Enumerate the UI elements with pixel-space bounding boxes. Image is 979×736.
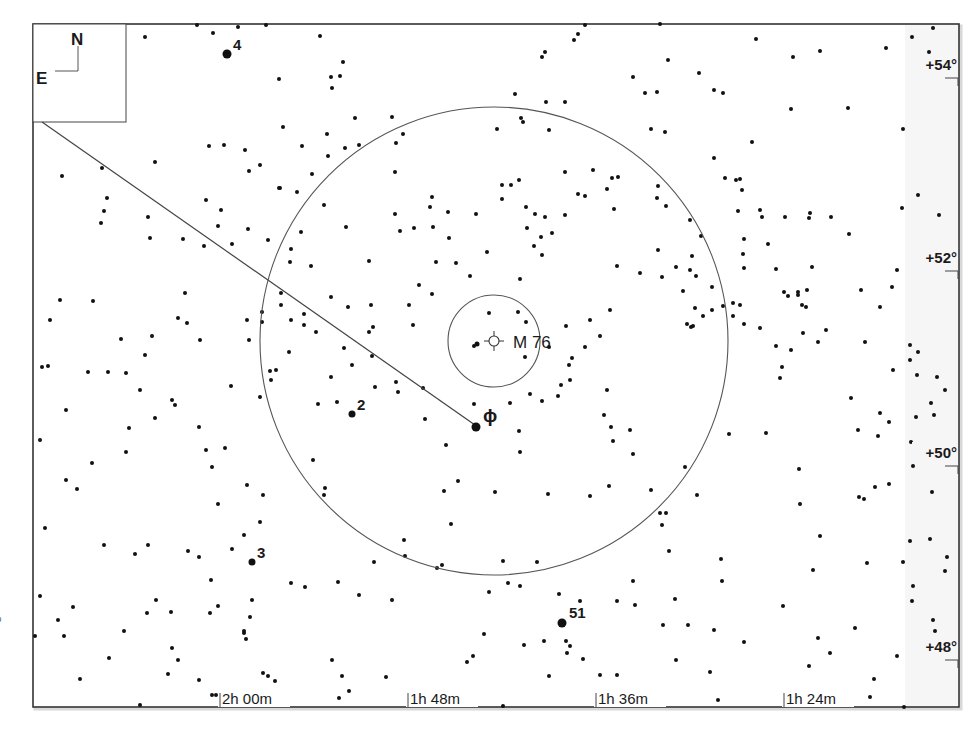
- star: [281, 125, 285, 129]
- star: [810, 265, 814, 269]
- star: [258, 163, 262, 167]
- star: [734, 178, 738, 182]
- star: [758, 208, 762, 212]
- star: [716, 698, 720, 702]
- star: [407, 303, 411, 307]
- star: [153, 416, 157, 420]
- star-label: 2: [357, 396, 365, 413]
- star: [394, 141, 398, 145]
- star: [701, 314, 705, 318]
- star: [931, 618, 935, 622]
- star-map: NEM 764ϕ2351+54°+52°+50°+48°2h 00m1h 48m…: [0, 0, 979, 736]
- labeled-star: [472, 423, 481, 432]
- star: [513, 92, 517, 96]
- star: [323, 486, 327, 490]
- star: [300, 144, 304, 148]
- star: [685, 322, 689, 326]
- dec-label: +50°: [926, 444, 957, 461]
- star: [198, 338, 202, 342]
- star: [138, 388, 142, 392]
- star: [796, 290, 800, 294]
- star: [86, 370, 90, 374]
- star: [46, 364, 50, 368]
- star: [539, 235, 543, 239]
- star: [347, 689, 351, 693]
- star: [90, 461, 94, 465]
- star: [393, 212, 397, 216]
- ra-label: 1h 24m: [786, 690, 836, 707]
- star: [183, 291, 187, 295]
- star: [782, 290, 786, 294]
- star: [154, 598, 158, 602]
- star: [216, 604, 220, 608]
- star: [247, 338, 251, 342]
- star: [509, 183, 513, 187]
- star: [588, 318, 592, 322]
- star: [242, 533, 246, 537]
- star: [563, 213, 567, 217]
- star: [862, 497, 866, 501]
- ra-label: 1h 36m: [598, 690, 648, 707]
- star: [210, 465, 214, 469]
- star: [329, 375, 333, 379]
- star: [99, 221, 103, 225]
- star: [357, 593, 361, 597]
- star: [208, 611, 212, 615]
- star: [572, 38, 576, 42]
- star: [64, 408, 68, 412]
- star: [945, 555, 949, 559]
- star: [643, 91, 647, 95]
- star: [371, 325, 375, 329]
- star: [609, 425, 613, 429]
- star: [631, 75, 635, 79]
- star: [390, 115, 394, 119]
- star: [102, 543, 106, 547]
- star: [829, 215, 833, 219]
- star: [929, 401, 933, 405]
- star: [872, 677, 876, 681]
- star: [38, 438, 42, 442]
- star: [330, 658, 334, 662]
- star: [576, 32, 580, 36]
- star: [633, 603, 637, 607]
- star: [674, 658, 678, 662]
- star: [277, 77, 281, 81]
- star: [299, 230, 303, 234]
- star: [197, 425, 201, 429]
- star: [468, 274, 472, 278]
- star: [660, 523, 664, 527]
- star: [197, 555, 201, 559]
- star: [712, 88, 716, 92]
- star: [740, 188, 744, 192]
- star-label: 3: [257, 544, 265, 561]
- star: [649, 127, 653, 131]
- star: [508, 401, 512, 405]
- star: [666, 58, 670, 62]
- star: [778, 376, 782, 380]
- star: [195, 23, 199, 27]
- star: [430, 292, 434, 296]
- star: [660, 275, 664, 279]
- star: [631, 579, 635, 583]
- star: [471, 654, 475, 658]
- star: [58, 298, 62, 302]
- star: [311, 458, 315, 462]
- ra-label: 1h 48m: [410, 690, 460, 707]
- star: [302, 312, 306, 316]
- star: [48, 318, 52, 322]
- star: [250, 598, 254, 602]
- star: [742, 640, 746, 644]
- star: [214, 693, 218, 697]
- star: [485, 250, 489, 254]
- star: [901, 127, 905, 131]
- star: [487, 590, 491, 594]
- star: [266, 674, 270, 678]
- star: [774, 344, 778, 348]
- star: [683, 465, 687, 469]
- star: [329, 75, 333, 79]
- star: [176, 658, 180, 662]
- star: [153, 160, 157, 164]
- star: [269, 378, 273, 382]
- star: [927, 50, 931, 54]
- star: [655, 196, 659, 200]
